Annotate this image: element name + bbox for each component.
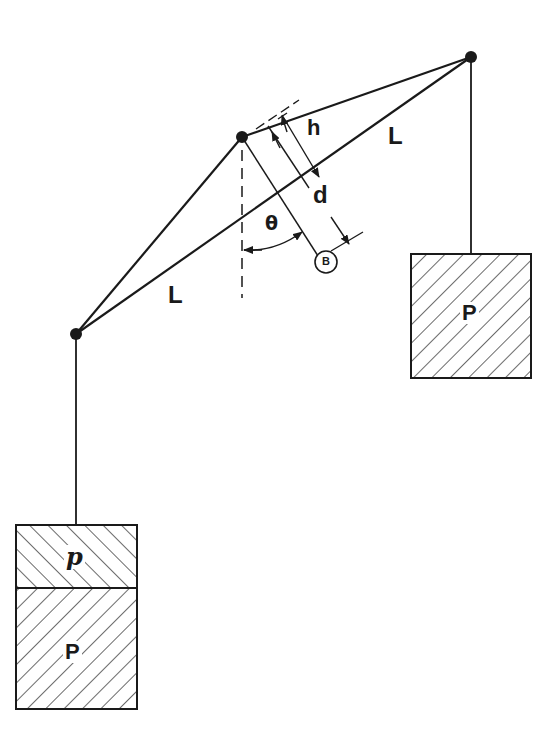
- joint-right: [465, 51, 477, 63]
- label-L-left: L: [168, 283, 183, 307]
- label-d: d: [313, 183, 328, 207]
- label-h: h: [307, 117, 320, 139]
- label-p-extra: p: [64, 545, 85, 569]
- theta-arc: [244, 232, 302, 250]
- label-P-left: P: [63, 641, 82, 663]
- joint-center: [236, 131, 248, 143]
- joint-left: [70, 328, 82, 340]
- diagram-stage: L L h d θ B P P p: [0, 0, 548, 733]
- label-P-right: P: [460, 302, 479, 324]
- bar-right-upper: [242, 57, 471, 137]
- label-theta: θ: [265, 214, 278, 233]
- label-L-right: L: [388, 124, 403, 148]
- d-dimension: [268, 126, 349, 244]
- linkage-diagram: [0, 0, 548, 733]
- offset-line-to-B: [242, 137, 318, 256]
- label-B: B: [322, 256, 330, 267]
